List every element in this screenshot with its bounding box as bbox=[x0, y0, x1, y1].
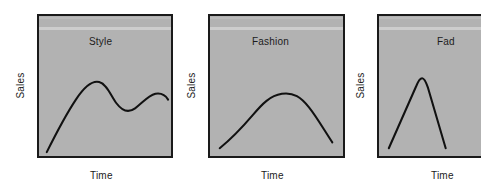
plot-area-fad bbox=[377, 14, 481, 158]
panel-title-fad: Fad bbox=[437, 36, 455, 47]
fad-curve-svg bbox=[379, 16, 481, 156]
y-axis-label-fad: Sales bbox=[355, 69, 366, 103]
fad-sales-curve bbox=[389, 78, 446, 148]
y-axis-label-fashion: Sales bbox=[186, 69, 197, 103]
x-axis-label-fashion: Time bbox=[261, 170, 284, 181]
x-axis-label-style: Time bbox=[90, 170, 113, 181]
panel-title-style: Style bbox=[89, 36, 112, 47]
style-sales-curve bbox=[47, 82, 168, 152]
fashion-sales-curve bbox=[220, 93, 333, 148]
x-axis-label-fad: Time bbox=[431, 170, 454, 181]
panel-title-fashion: Fashion bbox=[252, 36, 289, 47]
y-axis-label-style: Sales bbox=[15, 69, 26, 103]
